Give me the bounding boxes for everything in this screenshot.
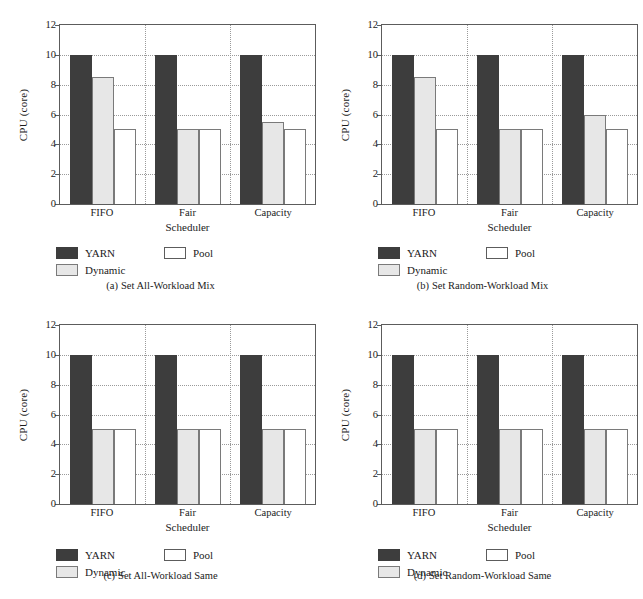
bar-pool-fifo	[436, 129, 458, 204]
x-tick-label-capacity: Capacity	[230, 507, 316, 519]
legend-b: YARN Pool Dynamic	[378, 244, 628, 278]
legend-item-yarn-b: YARN	[378, 247, 486, 259]
bar-yarn-fair	[477, 355, 499, 504]
panel-tag-a: (a)	[106, 280, 118, 291]
bar-yarn-capacity	[240, 55, 262, 204]
y-tick-label: 10	[46, 50, 57, 61]
legend-label-pool: Pool	[515, 549, 535, 561]
legend-label-yarn: YARN	[407, 549, 437, 561]
bar-pool-fair	[521, 429, 543, 504]
legend-swatch-dynamic-icon	[56, 264, 78, 276]
legend-item-yarn-a: YARN	[56, 247, 164, 259]
y-axis-title-text-c: CPU (core)	[17, 388, 29, 440]
bar-group-fifo	[382, 325, 467, 504]
y-tick-label: 0	[51, 199, 56, 210]
y-tick-label: 6	[373, 409, 378, 420]
bar-group-fair	[467, 325, 552, 504]
bar-yarn-capacity	[562, 55, 584, 204]
y-axis-title-b: CPU (core)	[338, 24, 352, 205]
bar-dynamic-fifo	[92, 77, 114, 204]
bar-pool-capacity	[284, 129, 306, 204]
bar-yarn-fifo	[392, 355, 414, 504]
bar-pool-capacity	[284, 429, 306, 504]
legend-item-dynamic-a: Dynamic	[56, 264, 164, 276]
y-tick-label: 0	[373, 499, 378, 510]
panel-a: CPU (core) 024681012 FIFOFairCapacity Sc…	[0, 0, 321, 299]
x-axis-title-c: Scheduler	[59, 521, 316, 533]
panel-caption-d: (d)Set Random-Workload Same	[322, 570, 643, 581]
bar-group-capacity	[552, 325, 637, 504]
y-axis-title-c: CPU (core)	[16, 324, 30, 505]
y-tick-label: 0	[51, 499, 56, 510]
bar-yarn-fifo	[70, 55, 92, 204]
legend-label-dynamic: Dynamic	[85, 264, 125, 276]
legend-swatch-yarn-icon	[56, 549, 78, 561]
bar-group-capacity	[230, 325, 315, 504]
panel-caption-a: (a)Set All-Workload Mix	[0, 280, 321, 291]
y-axis-title-text-b: CPU (core)	[339, 88, 351, 140]
x-tick-label-fair: Fair	[145, 207, 231, 219]
legend-swatch-yarn-icon	[378, 549, 400, 561]
bar-dynamic-fair	[177, 129, 199, 204]
panel-caption-text-b: Set Random-Workload Mix	[432, 280, 548, 291]
y-axis-title-a: CPU (core)	[16, 24, 30, 205]
y-tick-label: 4	[373, 439, 378, 450]
x-tick-labels-a: FIFOFairCapacity	[59, 207, 316, 219]
plot-area-b: CPU (core) 024681012 FIFOFairCapacity Sc…	[322, 0, 643, 232]
bar-dynamic-capacity	[584, 429, 606, 504]
legend-item-pool-a: Pool	[164, 247, 306, 259]
legend-swatch-pool-icon	[486, 549, 508, 561]
bar-dynamic-capacity	[262, 429, 284, 504]
y-tick-label: 12	[368, 20, 379, 31]
x-tick-label-fair: Fair	[145, 507, 231, 519]
bar-yarn-fifo	[392, 55, 414, 204]
bar-group-fair	[145, 25, 230, 204]
panel-b: CPU (core) 024681012 FIFOFairCapacity Sc…	[322, 0, 643, 299]
bar-group-fair	[467, 25, 552, 204]
bar-group-capacity	[230, 25, 315, 204]
axes-frame-a: 024681012	[59, 24, 316, 205]
y-tick-label: 4	[51, 439, 56, 450]
bar-group-capacity	[552, 25, 637, 204]
legend-label-dynamic: Dynamic	[407, 264, 447, 276]
y-axis-title-d: CPU (core)	[338, 324, 352, 505]
y-tick-label: 2	[51, 169, 56, 180]
figure-multi-panel-bar-charts: CPU (core) 024681012 FIFOFairCapacity Sc…	[0, 0, 643, 599]
y-tick-label: 8	[373, 379, 378, 390]
y-tick-label: 10	[368, 350, 379, 361]
y-tick-label: 10	[46, 350, 57, 361]
bar-yarn-fair	[155, 55, 177, 204]
plot-area-a: CPU (core) 024681012 FIFOFairCapacity Sc…	[0, 0, 321, 232]
y-tick-label: 4	[51, 139, 56, 150]
bar-pool-fair	[199, 429, 221, 504]
x-tick-labels-c: FIFOFairCapacity	[59, 507, 316, 519]
bar-group-fifo	[60, 325, 145, 504]
bar-dynamic-capacity	[584, 115, 606, 205]
bar-yarn-capacity	[562, 355, 584, 504]
x-tick-label-fifo: FIFO	[381, 507, 467, 519]
plot-area-c: CPU (core) 024681012 FIFOFairCapacity Sc…	[0, 300, 321, 532]
y-tick-label: 0	[373, 199, 378, 210]
panel-caption-text-c: Set All-Workload Same	[118, 570, 217, 581]
bar-yarn-fair	[155, 355, 177, 504]
y-tick-label: 6	[51, 409, 56, 420]
bar-groups-d	[382, 325, 637, 504]
panel-c: CPU (core) 024681012 FIFOFairCapacity Sc…	[0, 300, 321, 599]
bar-pool-fifo	[114, 429, 136, 504]
legend-label-pool: Pool	[193, 549, 213, 561]
x-tick-label-capacity: Capacity	[552, 507, 638, 519]
y-tick-label: 12	[46, 20, 57, 31]
legend-a: YARN Pool Dynamic	[56, 244, 306, 278]
bar-pool-fair	[521, 129, 543, 204]
y-tick-label: 8	[373, 79, 378, 90]
bar-dynamic-fair	[499, 129, 521, 204]
bar-dynamic-fifo	[414, 77, 436, 204]
legend-swatch-yarn-icon	[56, 247, 78, 259]
bar-pool-fair	[199, 129, 221, 204]
x-tick-label-fifo: FIFO	[59, 207, 145, 219]
legend-label-pool: Pool	[515, 247, 535, 259]
y-tick-label: 8	[51, 79, 56, 90]
bar-yarn-capacity	[240, 355, 262, 504]
panel-tag-b: (b)	[417, 280, 429, 291]
bar-dynamic-fifo	[414, 429, 436, 504]
